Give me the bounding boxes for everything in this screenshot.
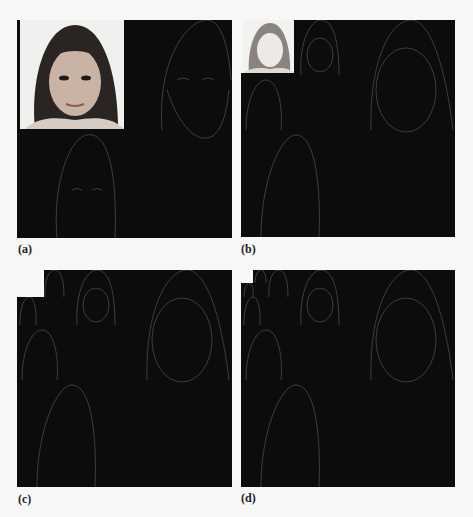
- edge-lines-c: [17, 270, 232, 487]
- approximation-image-b: [243, 20, 294, 73]
- face-photo-small: [243, 20, 294, 73]
- panel-label-a: (a): [18, 242, 32, 257]
- edge-lines-d: [241, 270, 455, 487]
- face-photo: [20, 20, 124, 129]
- cut-d: [241, 270, 253, 283]
- panel-label-b: (b): [241, 242, 256, 257]
- detail-subbands-c: [17, 270, 232, 487]
- panel-label-d: (d): [241, 491, 256, 506]
- detail-subbands-d: [241, 270, 455, 487]
- panel-label-c: (c): [18, 492, 31, 507]
- approximation-image-a: [20, 20, 124, 129]
- cut-c: [17, 270, 44, 297]
